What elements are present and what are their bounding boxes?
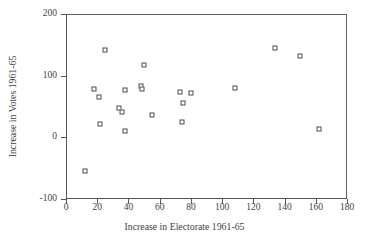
data-point — [316, 126, 321, 131]
y-tick-label: 200 — [43, 9, 57, 19]
x-tick-label: 120 — [246, 203, 260, 213]
data-point — [103, 47, 108, 52]
x-tick-label: 160 — [309, 203, 323, 213]
x-tick-label: 0 — [64, 203, 69, 213]
x-tick-label: 180 — [340, 203, 354, 213]
x-axis-title: Increase in Electorate 1961-65 — [0, 221, 369, 232]
data-point — [120, 110, 125, 115]
data-point — [123, 129, 128, 134]
y-tick-mark — [61, 76, 66, 77]
data-point — [232, 86, 237, 91]
plot-area — [66, 14, 347, 199]
data-point — [273, 45, 278, 50]
y-tick-mark — [61, 137, 66, 138]
data-point — [179, 119, 184, 124]
x-tick-label: 140 — [277, 203, 291, 213]
x-axis-title-text: Increase in Electorate 1961-65 — [125, 221, 245, 232]
x-tick-label: 100 — [215, 203, 229, 213]
data-point — [298, 53, 303, 58]
y-tick-label: 0 — [52, 132, 57, 142]
x-tick-label: 20 — [92, 203, 102, 213]
data-point — [96, 95, 101, 100]
data-point — [123, 88, 128, 93]
data-point — [188, 90, 193, 95]
data-point — [181, 101, 186, 106]
data-point — [92, 87, 97, 92]
scatter-chart: Increase in Votes 1961-65 Increase in El… — [0, 0, 369, 242]
data-point — [142, 62, 147, 67]
data-point — [98, 122, 103, 127]
y-axis-title: Increase in Votes 1961-65 — [6, 14, 20, 199]
data-point — [82, 169, 87, 174]
data-point — [177, 90, 182, 95]
y-tick-mark — [61, 14, 66, 15]
data-point — [140, 87, 145, 92]
data-point — [149, 113, 154, 118]
x-tick-label: 80 — [186, 203, 196, 213]
y-tick-label: 100 — [43, 71, 57, 81]
y-axis-title-text: Increase in Votes 1961-65 — [8, 56, 19, 158]
x-tick-label: 60 — [155, 203, 165, 213]
y-tick-label: -100 — [40, 194, 57, 204]
x-tick-label: 40 — [124, 203, 134, 213]
